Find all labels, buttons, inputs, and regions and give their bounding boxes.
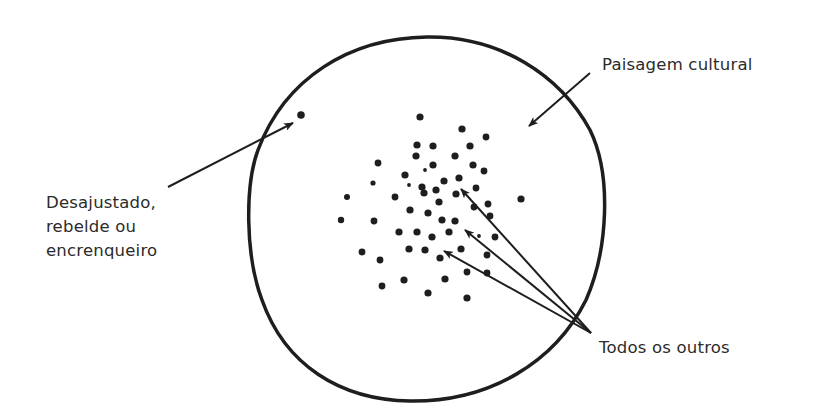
population-dot xyxy=(423,168,427,172)
population-dot xyxy=(477,234,481,238)
arrows xyxy=(168,73,591,333)
population-dot xyxy=(451,217,458,224)
population-dot xyxy=(440,177,447,184)
population-dot xyxy=(370,180,375,185)
cultural-landscape-boundary xyxy=(249,37,605,401)
population-dot xyxy=(421,246,428,253)
misfit-arrow-icon xyxy=(168,123,293,187)
population-dot xyxy=(375,160,382,167)
population-dot xyxy=(517,195,524,202)
population-dot xyxy=(406,206,413,213)
label-misfit-line-3: encrenqueiro xyxy=(46,239,157,263)
population-dot xyxy=(371,218,378,225)
population-dot xyxy=(412,152,419,159)
population-dot xyxy=(416,113,423,120)
population-dot xyxy=(413,141,420,148)
population-dot xyxy=(452,190,459,197)
population-dot xyxy=(413,228,420,235)
others-arrow-1-icon xyxy=(461,189,591,333)
misfit-dot xyxy=(297,111,305,119)
label-misfit: Desajustado, rebelde ou encrenqueiro xyxy=(46,191,157,263)
population-dot xyxy=(338,217,344,223)
population-dot xyxy=(401,171,408,178)
population-dot xyxy=(395,228,402,235)
population-dot xyxy=(463,294,470,301)
population-dot xyxy=(464,269,471,276)
population-dot xyxy=(485,201,492,208)
population-dot xyxy=(344,194,350,200)
population-dot xyxy=(484,252,491,259)
population-dot xyxy=(377,257,384,264)
population-dot xyxy=(492,234,499,241)
population-dot xyxy=(481,168,488,175)
population-dot xyxy=(405,245,412,252)
population-dot xyxy=(483,134,490,141)
population-dot xyxy=(424,209,431,216)
others-arrow-3-icon xyxy=(444,251,591,333)
label-cultural-landscape: Paisagem cultural xyxy=(602,53,752,77)
population-dots xyxy=(338,113,525,301)
population-dot xyxy=(379,283,386,290)
population-dot xyxy=(432,186,439,193)
others-arrow-2-icon xyxy=(465,230,591,333)
population-dot xyxy=(435,198,442,205)
population-dot xyxy=(359,249,366,256)
population-dot xyxy=(455,174,462,181)
population-dot xyxy=(445,228,452,235)
population-dot xyxy=(441,275,448,282)
population-dot xyxy=(458,125,465,132)
population-dot xyxy=(429,142,436,149)
label-misfit-line-2: rebelde ou xyxy=(46,215,157,239)
population-dot xyxy=(429,161,436,168)
population-dot xyxy=(457,245,464,252)
population-dot xyxy=(469,161,476,168)
population-dot xyxy=(451,152,458,159)
population-dot xyxy=(428,233,435,240)
population-dot xyxy=(473,185,480,192)
population-dot xyxy=(424,289,431,296)
population-dot xyxy=(400,276,407,283)
population-dot xyxy=(438,216,445,223)
population-dot xyxy=(407,183,411,187)
population-dot xyxy=(420,189,427,196)
population-dot xyxy=(392,194,399,201)
population-dot xyxy=(436,254,443,261)
population-dot xyxy=(466,142,473,149)
label-everyone-else: Todos os outros xyxy=(599,336,730,360)
label-misfit-line-1: Desajustado, xyxy=(46,191,157,215)
